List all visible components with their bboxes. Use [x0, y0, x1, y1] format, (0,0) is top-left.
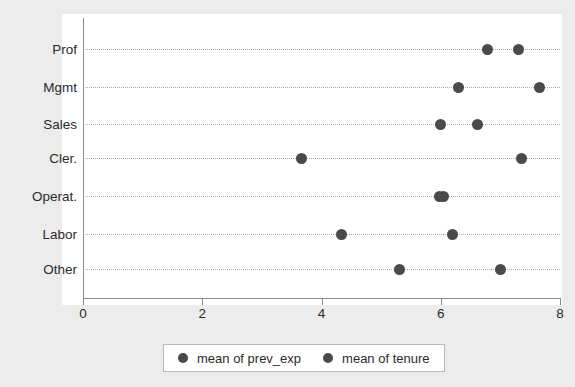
data-point [336, 229, 347, 240]
legend-label: mean of tenure [342, 351, 429, 366]
data-point [447, 229, 458, 240]
x-tick-label-6: 6 [437, 306, 445, 321]
x-tick-label-0: 0 [79, 306, 87, 321]
data-point [453, 82, 464, 93]
legend-item-tenure: mean of tenure [323, 351, 429, 366]
data-point [296, 153, 307, 164]
x-tick-label-2: 2 [198, 306, 206, 321]
gridline-labor [83, 234, 560, 235]
legend-marker-icon [323, 353, 333, 363]
data-point [472, 119, 483, 130]
data-point [482, 44, 493, 55]
scatter-chart: ProfMgmtSalesCler.Operat.LaborOther 0246… [0, 0, 575, 387]
x-tick-mark [322, 299, 323, 305]
data-point [534, 82, 545, 93]
data-point [495, 264, 506, 275]
data-point [438, 191, 449, 202]
chart-legend: mean of prev_exp mean of tenure [163, 344, 445, 372]
plot-area [83, 22, 560, 292]
legend-marker-icon [178, 353, 188, 363]
x-tick-mark [560, 299, 561, 305]
x-tick-label-4: 4 [318, 306, 326, 321]
gridline-sales [83, 124, 560, 125]
x-tick-mark [441, 299, 442, 305]
gridline-other [83, 269, 560, 270]
data-point [394, 264, 405, 275]
x-tick-label-8: 8 [556, 306, 564, 321]
data-point [513, 44, 524, 55]
legend-label: mean of prev_exp [197, 351, 301, 366]
data-point [435, 119, 446, 130]
x-tick-mark [202, 299, 203, 305]
data-point [516, 153, 527, 164]
gridline-cler [83, 158, 560, 159]
x-tick-mark [83, 299, 84, 305]
gridline-mgmt [83, 87, 560, 88]
gridline-operat [83, 196, 560, 197]
legend-item-prev-exp: mean of prev_exp [178, 351, 301, 366]
